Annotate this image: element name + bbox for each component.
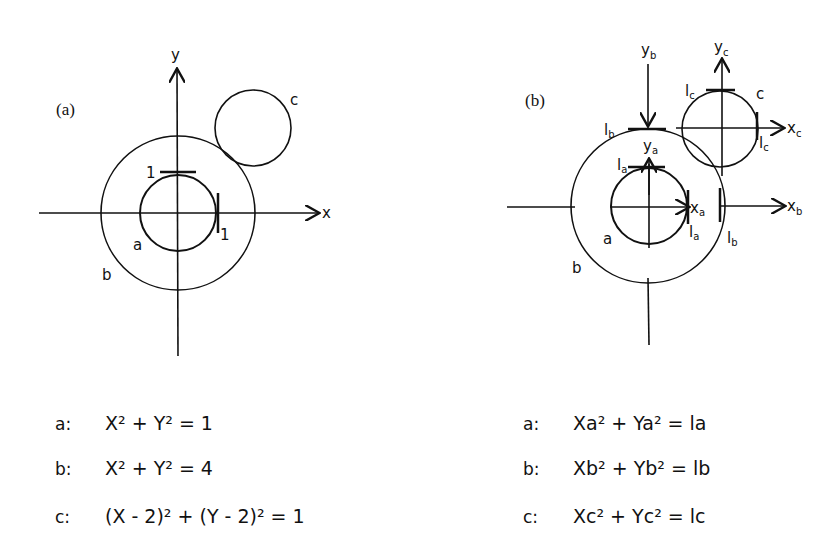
panel-a-label: (a) [56,100,75,119]
xb-label: xb [787,197,802,217]
equation-b-local: b:Xb² + Yb² = lb [523,457,710,479]
circle-b-label-b: b [572,259,582,277]
equation-c-local: c:Xc² + Yc² = lc [523,505,705,527]
la-tick-right: la [689,223,699,242]
lc-tick-right: lc [759,134,769,153]
circle-c [215,90,291,166]
lb-tick-right: lb [727,229,738,248]
equation-a-local: a:Xa² + Ya² = la [523,412,706,434]
circle-a-label: a [133,236,142,254]
x-tick-1: 1 [220,226,230,244]
circle-b-label: b [102,266,112,284]
y-axis-label: y [171,46,180,64]
x-axis-label: x [322,204,331,222]
equation-a: a:X² + Y² = 1 [55,412,213,434]
circle-c [682,91,758,167]
panel-a [39,70,318,356]
y-axis-a [177,70,178,356]
xc-label: xc [787,119,801,139]
xa-label: xa [690,199,705,218]
la-tick-top: la [617,156,627,175]
lc-tick-top: lc [685,82,695,101]
ya-label: ya [643,137,658,156]
circle-c-label-b: c [756,85,764,103]
equation-b: b:X² + Y² = 4 [55,457,213,479]
yb-label: yb [641,41,656,61]
y-tick-1: 1 [146,164,156,182]
yc-label: yc [714,38,728,58]
circle-a-label-b: a [603,230,612,248]
circle-c-label: c [290,91,298,109]
equation-c: c:(X - 2)² + (Y - 2)² = 1 [55,505,305,527]
panel-b-label: (b) [525,91,545,110]
panel-b [507,60,784,345]
lb-tick-top: lb [604,121,615,140]
